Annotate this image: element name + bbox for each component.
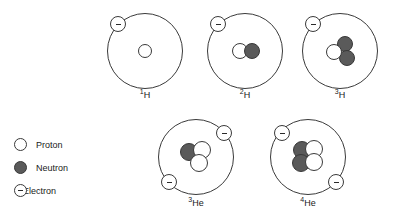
minus-sign-icon bbox=[280, 133, 285, 134]
electron-icon bbox=[14, 184, 27, 197]
element-symbol: H bbox=[244, 90, 251, 100]
neutron-particle bbox=[244, 43, 260, 59]
proton-particle bbox=[326, 44, 342, 60]
proton-icon bbox=[14, 138, 27, 151]
legend-label-neutron: Neutron bbox=[36, 163, 68, 173]
element-symbol: He bbox=[192, 198, 204, 208]
legend-label-electron: Electron bbox=[23, 186, 56, 196]
minus-sign-icon bbox=[116, 24, 121, 25]
electron-particle bbox=[328, 174, 344, 190]
legend-item-neutron: Neutron bbox=[14, 156, 68, 179]
atom-hydrogen-1 bbox=[107, 13, 183, 89]
electron-particle bbox=[110, 16, 126, 32]
minus-sign-icon bbox=[311, 24, 316, 25]
atom-hydrogen-3 bbox=[302, 13, 378, 89]
legend-label-proton: Proton bbox=[36, 140, 63, 150]
legend: Proton Neutron Electron bbox=[14, 133, 68, 202]
minus-sign-icon bbox=[216, 24, 221, 25]
minus-sign-icon bbox=[222, 133, 227, 134]
proton-particle bbox=[305, 153, 323, 171]
element-symbol: H bbox=[144, 90, 151, 100]
electron-particle bbox=[274, 125, 290, 141]
minus-sign-icon bbox=[334, 182, 339, 183]
isotope-diagram: 1H2H3H3He4He Proton Neutron Electron bbox=[0, 0, 405, 223]
isotope-label-hydrogen-3: 3H bbox=[300, 88, 380, 100]
element-symbol: H bbox=[339, 90, 346, 100]
minus-sign-icon bbox=[167, 182, 172, 183]
electron-particle bbox=[210, 16, 226, 32]
element-symbol: He bbox=[304, 198, 316, 208]
isotope-label-hydrogen-1: 1H bbox=[105, 88, 185, 100]
neutron-icon bbox=[14, 161, 27, 174]
atom-helium-4 bbox=[270, 119, 346, 195]
legend-item-proton: Proton bbox=[14, 133, 68, 156]
atom-hydrogen-2 bbox=[207, 13, 283, 89]
electron-particle bbox=[216, 125, 232, 141]
isotope-label-helium-4: 4He bbox=[268, 196, 348, 208]
isotope-label-hydrogen-2: 2H bbox=[205, 88, 285, 100]
electron-particle bbox=[305, 16, 321, 32]
isotope-label-helium-3: 3He bbox=[156, 196, 236, 208]
proton-particle bbox=[190, 154, 208, 172]
proton-particle bbox=[138, 44, 152, 58]
legend-item-electron: Electron bbox=[14, 179, 68, 202]
electron-particle bbox=[161, 174, 177, 190]
atom-helium-3 bbox=[158, 119, 234, 195]
